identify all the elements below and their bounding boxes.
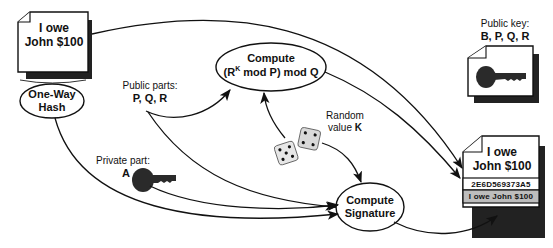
compute-r-line1: Compute bbox=[216, 52, 326, 65]
public-parts-value: P, Q, R bbox=[110, 92, 190, 105]
hash-line2: Hash bbox=[20, 101, 84, 114]
private-part-value: A bbox=[122, 167, 134, 180]
source-document-text: I owe John $100 bbox=[20, 22, 88, 50]
arrow-private-to-signature bbox=[150, 186, 338, 209]
hash-line1: One-Way bbox=[20, 88, 84, 101]
arrow-public-to-signature bbox=[148, 112, 336, 207]
random-value-k: K bbox=[355, 122, 362, 133]
arrow-dice-to-signature bbox=[322, 143, 361, 182]
signed-footer-text: I owe John $100 bbox=[463, 192, 539, 201]
compute-r-label: Compute (RK mod P) mod Q bbox=[216, 52, 326, 78]
compute-signature-line1: Compute bbox=[336, 194, 404, 207]
arrow-dice-to-r bbox=[264, 93, 285, 138]
brace-divider bbox=[20, 80, 86, 83]
random-line2-prefix: value bbox=[328, 122, 355, 133]
source-document-line2: John $100 bbox=[20, 36, 88, 50]
public-parts-label: Public parts: P, Q, R bbox=[110, 80, 190, 104]
compute-signature-line2: Signature bbox=[336, 207, 404, 220]
signed-line2: John $100 bbox=[466, 160, 538, 174]
signed-line1: I owe bbox=[466, 146, 538, 160]
compute-signature-label: Compute Signature bbox=[336, 194, 404, 219]
public-key-value: B, P, Q, R bbox=[472, 30, 538, 43]
public-key-label: Public key: B, P, Q, R bbox=[472, 18, 538, 42]
source-document-line1: I owe bbox=[20, 22, 88, 36]
random-value-label: Random value K bbox=[320, 110, 370, 133]
public-key-title: Public key: bbox=[472, 18, 538, 30]
formula-suffix: mod P) mod Q bbox=[240, 65, 318, 77]
public-key-document-icon bbox=[468, 46, 539, 103]
arrow-hash-to-signature bbox=[55, 118, 338, 218]
one-way-hash-label: One-Way Hash bbox=[20, 88, 84, 113]
compute-r-formula: (RK mod P) mod Q bbox=[216, 65, 326, 78]
random-line1: Random bbox=[320, 110, 370, 122]
public-parts-title: Public parts: bbox=[110, 80, 190, 92]
formula-prefix: (R bbox=[224, 65, 236, 77]
private-part-label: Private part: bbox=[96, 155, 166, 167]
signature-hash-value: 2E6D569373A5 bbox=[463, 180, 539, 189]
signed-document-text: I owe John $100 bbox=[466, 146, 538, 174]
